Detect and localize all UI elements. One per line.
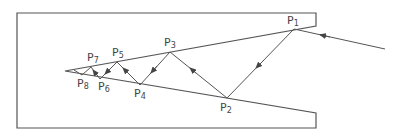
wedge-body-outline [17,13,316,128]
label-p2: P2 [220,101,232,115]
ray-direction-arrows [93,60,264,74]
label-p6: P6 [98,80,110,94]
incoming-ray [294,29,385,49]
label-p4: P4 [134,87,146,101]
wedge-reflection-diagram: P1 P2 P3 P4 P5 P6 P7 P8 [0,0,404,139]
label-p8: P8 [77,77,89,91]
label-p7: P7 [87,51,99,65]
incoming-ray-arrow [320,35,330,37]
label-p1: P1 [287,14,299,28]
label-p5: P5 [112,46,124,60]
label-p3: P3 [164,36,176,50]
